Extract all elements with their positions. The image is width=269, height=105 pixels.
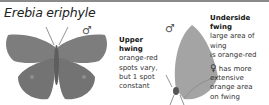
upper-note-line: constant xyxy=(119,82,164,91)
underside-fwing-note: Underside fwing large area of wing is or… xyxy=(210,14,269,60)
upper-note-line: spots vary, xyxy=(119,64,164,73)
butterfly-upperside-image xyxy=(2,15,112,105)
female-symbol: ♀ xyxy=(210,63,217,73)
female-note: ♀ has more extensive orange area on fwin… xyxy=(210,64,269,102)
underside-fwing-heading: Underside fwing xyxy=(210,14,269,32)
upper-hwing-heading-2: hwing xyxy=(119,45,164,54)
female-note-text: has more xyxy=(219,65,252,73)
top-rule xyxy=(0,0,269,2)
female-note-line: orange area xyxy=(210,83,269,92)
female-note-line-1: ♀ has more xyxy=(210,64,269,74)
upper-note-line: but 1 spot xyxy=(119,73,164,82)
female-note-line: extensive xyxy=(210,74,269,83)
under-note-line: is orange-red xyxy=(210,51,269,60)
upper-hwing-note: Upper hwing orange-red spots vary, but 1… xyxy=(119,36,164,91)
upper-hwing-heading-1: Upper xyxy=(119,36,164,45)
male-symbol-under: ♂ xyxy=(165,22,175,35)
female-note-line: on fwing xyxy=(210,93,269,102)
under-note-line: large area of wing xyxy=(210,32,269,50)
upper-note-line: orange-red xyxy=(119,54,164,63)
male-symbol-upper: ♂ xyxy=(82,24,92,37)
